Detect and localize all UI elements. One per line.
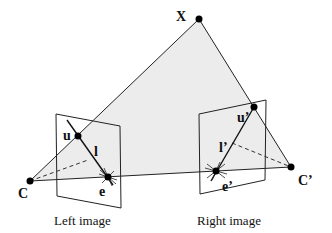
caption-left-image: Left image: [54, 213, 111, 228]
label-u: u: [63, 128, 71, 143]
point-u: [75, 133, 82, 140]
point-eprime: [213, 168, 220, 175]
label-lprime: l’: [219, 140, 228, 155]
label-e: e: [99, 184, 105, 199]
point-c: [27, 178, 34, 185]
label-uprime: u’: [237, 110, 249, 125]
label-c: C: [18, 186, 28, 201]
epipolar-plane: [30, 19, 291, 181]
label-x: X: [176, 9, 186, 24]
point-cprime: [288, 164, 295, 171]
label-l: l: [94, 144, 98, 159]
epipolar-geometry-diagram: X C C’ u e u’ e’ l l’ Left image Right i…: [0, 0, 332, 233]
point-e: [105, 174, 112, 181]
caption-right-image: Right image: [197, 213, 261, 228]
label-eprime: e’: [222, 179, 233, 194]
point-x: [196, 16, 203, 23]
point-uprime: [251, 104, 258, 111]
label-cprime: C’: [298, 173, 313, 188]
